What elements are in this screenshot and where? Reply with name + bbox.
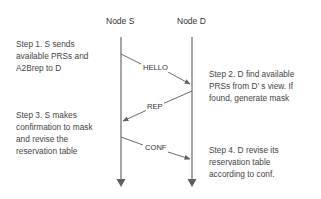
step-2-description: Step 2. D find available PRSs from D’ s … (209, 68, 294, 104)
lifeline-node-d (188, 37, 197, 187)
lifeline-s-arrowhead-icon (117, 179, 126, 187)
step-3-description: Step 3. S makes confirmation to mask and… (16, 109, 93, 157)
lifeline-node-s (117, 37, 126, 187)
lifeline-d-arrowhead-icon (188, 179, 197, 187)
step-1-description: Step 1. S sends available PRSs and A2Bre… (16, 38, 88, 74)
message-label-hello: HELLO (142, 63, 169, 72)
step-4-description: Step 4. D revise its reservation table a… (209, 144, 279, 180)
node-d-label: Node D (177, 16, 206, 26)
message-label-conf: CONF (144, 143, 168, 152)
message-label-rep: REP (146, 102, 164, 111)
node-s-label: Node S (106, 16, 134, 26)
